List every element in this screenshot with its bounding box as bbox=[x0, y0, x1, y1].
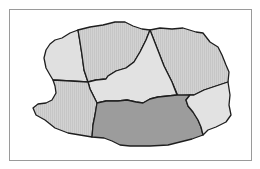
region-map bbox=[0, 0, 260, 169]
region-west[interactable] bbox=[33, 80, 97, 137]
